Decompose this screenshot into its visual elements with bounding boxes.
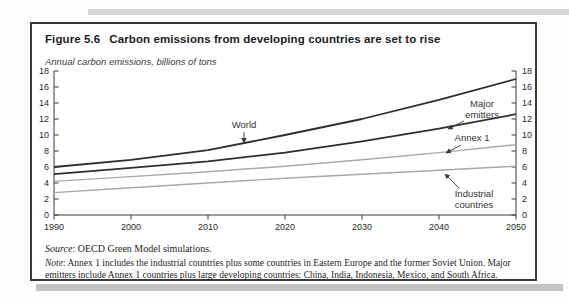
- y-tick-label-left: 0: [44, 210, 49, 220]
- note-text: : Annex 1 includes the industrial countr…: [45, 258, 511, 280]
- figure-title-text: Carbon emissions from developing countri…: [109, 33, 440, 45]
- y-tick-label-right: 14: [522, 98, 532, 108]
- series-line-major-emitters: [54, 114, 516, 174]
- source-text: : OECD Green Model simulations.: [72, 243, 211, 254]
- y-tick-label-right: 2: [522, 194, 527, 204]
- y-tick-label-left: 8: [44, 146, 49, 156]
- scan-artifact-bottom: [36, 284, 563, 291]
- annotation-label-world: World: [232, 119, 257, 130]
- source-label: Source: [45, 243, 72, 254]
- y-tick-label-right: 18: [522, 67, 532, 76]
- y-tick-label-right: 0: [522, 210, 527, 220]
- figure-title: Figure 5.6Carbon emissions from developi…: [45, 33, 525, 45]
- x-tick-label: 2020: [275, 222, 295, 232]
- annotation-label-major-emitters: emitters: [465, 109, 499, 120]
- annotation-arrow-industrial-countries: [445, 174, 459, 188]
- figure-subtitle: Annual carbon emissions, billions of ton…: [45, 56, 217, 67]
- y-tick-label-left: 10: [39, 130, 49, 140]
- x-tick-label: 2040: [429, 222, 449, 232]
- y-tick-label-right: 4: [522, 178, 527, 188]
- y-tick-label-left: 6: [44, 162, 49, 172]
- annotation-label-industrial-countries: countries: [455, 199, 494, 210]
- scan-artifact-top: [88, 9, 569, 15]
- series-line-industrial-countries: [54, 166, 516, 192]
- y-tick-label-right: 16: [522, 82, 532, 92]
- annotation-label-industrial-countries: Industrial: [455, 188, 494, 199]
- y-tick-label-left: 2: [44, 194, 49, 204]
- x-tick-label: 1990: [44, 222, 64, 232]
- x-tick-label: 2030: [352, 222, 372, 232]
- y-tick-label-left: 12: [39, 114, 49, 124]
- y-tick-label-left: 18: [39, 67, 49, 76]
- y-tick-label-left: 16: [39, 82, 49, 92]
- page: Figure 5.6Carbon emissions from developi…: [0, 0, 569, 298]
- annotation-label-major-emitters: Major: [470, 98, 494, 109]
- y-tick-label-right: 12: [522, 114, 532, 124]
- y-tick-label-right: 6: [522, 162, 527, 172]
- annotation-label-annex 1: Annex 1: [455, 132, 490, 143]
- annotation-arrow-annex 1: [446, 145, 461, 153]
- figure-box: Figure 5.6Carbon emissions from developi…: [30, 22, 537, 281]
- source-line: Source: OECD Green Model simulations.: [45, 243, 212, 254]
- axis-frame: [54, 71, 516, 215]
- y-tick-label-left: 14: [39, 98, 49, 108]
- emissions-line-chart: 0022446688101012121414161618181990200020…: [32, 67, 535, 241]
- y-tick-label-right: 8: [522, 146, 527, 156]
- note-line: Note: Annex 1 includes the industrial co…: [45, 258, 529, 281]
- y-tick-label-left: 4: [44, 178, 49, 188]
- series-line-world: [54, 79, 516, 167]
- figure-label: Figure 5.6: [45, 33, 100, 45]
- x-tick-label: 2000: [121, 222, 141, 232]
- x-tick-label: 2050: [506, 222, 526, 232]
- y-tick-label-right: 10: [522, 130, 532, 140]
- x-tick-label: 2010: [198, 222, 218, 232]
- note-label: Note: [45, 258, 63, 268]
